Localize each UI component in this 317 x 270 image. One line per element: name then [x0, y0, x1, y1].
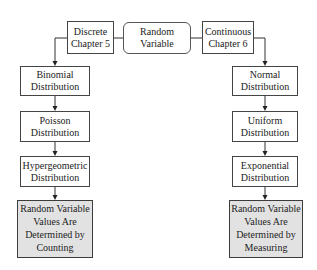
box-label: Distribution [31, 127, 79, 139]
measuring-summary-box: Random Variable Values Are Determined by… [229, 200, 303, 258]
random-variable-box: Random Variable [123, 22, 191, 54]
box-label: Binomial [36, 69, 73, 81]
counting-summary-box: Random Variable Values Are Determined by… [17, 200, 93, 258]
box-label: Poisson [39, 115, 70, 127]
box-label: Measuring [245, 242, 288, 255]
box-label: Determined by [25, 229, 85, 242]
box-label: Random Variable [231, 203, 301, 216]
box-label: Normal [250, 69, 281, 81]
box-label: Random [140, 26, 174, 38]
hypergeometric-distribution-box: Hypergeometric Distribution [20, 156, 90, 187]
box-label: Variable [140, 38, 173, 50]
box-label: Uniform [248, 115, 282, 127]
box-label: Values Are [244, 216, 288, 229]
box-label: Distribution [241, 127, 289, 139]
box-label: Continuous [205, 26, 251, 38]
box-label: Hypergeometric [23, 160, 88, 172]
box-label: Chapter 6 [208, 38, 247, 50]
box-label: Distribution [31, 172, 79, 184]
box-label: Distribution [31, 81, 79, 93]
box-label: Chapter 5 [71, 38, 110, 50]
uniform-distribution-box: Uniform Distribution [232, 111, 298, 142]
box-label: Discrete [74, 26, 107, 38]
box-label: Distribution [241, 81, 289, 93]
discrete-chapter-5-box: Discrete Chapter 5 [67, 21, 114, 54]
continuous-chapter-6-box: Continuous Chapter 6 [202, 21, 254, 54]
box-label: Determined by [236, 229, 296, 242]
binomial-distribution-box: Binomial Distribution [20, 66, 90, 96]
normal-distribution-box: Normal Distribution [232, 66, 298, 96]
box-label: Counting [36, 242, 73, 255]
random-variable-flowchart: Discrete Chapter 5 Random Variable Conti… [0, 0, 317, 270]
box-label: Exponential [241, 160, 289, 172]
box-label: Values Are [33, 216, 77, 229]
poisson-distribution-box: Poisson Distribution [20, 111, 90, 142]
box-label: Random Variable [20, 203, 90, 216]
exponential-distribution-box: Exponential Distribution [232, 156, 298, 187]
box-label: Distribution [241, 172, 289, 184]
